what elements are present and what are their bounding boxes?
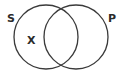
venn-diagram: S P X [0,0,120,73]
circle-p [44,5,108,69]
label-x-marker: X [27,34,36,47]
label-p: P [108,12,116,25]
label-s: S [7,12,15,25]
circle-s [14,5,78,69]
